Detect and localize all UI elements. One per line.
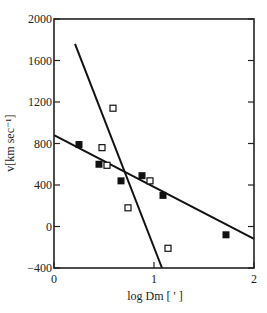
y-tick-label: 400: [34, 178, 52, 192]
filled-square-point: [76, 141, 83, 148]
open-square-point: [125, 205, 131, 211]
filled-square-point: [96, 161, 103, 168]
filled-square-point: [160, 192, 167, 199]
filled-square-point: [118, 177, 125, 184]
y-tick-label: 2000: [28, 12, 52, 26]
y-tick-label: 800: [34, 137, 52, 151]
y-tick-label: 0: [46, 220, 52, 234]
data-points: [76, 105, 230, 251]
y-axis-label: v[km sec⁻¹]: [3, 114, 17, 171]
x-tick-label: 2: [251, 272, 257, 286]
open-square-point: [110, 105, 116, 111]
y-tick-label: 1600: [28, 54, 52, 68]
open-square-point: [99, 145, 105, 151]
open-square-point: [104, 162, 110, 168]
axis-ticks: −4000400800120016002000012: [27, 12, 257, 286]
fit-line: [54, 135, 254, 239]
open-square-point: [147, 178, 153, 184]
x-tick-label: 1: [151, 272, 157, 286]
filled-square-point: [223, 231, 230, 238]
scatter-chart: −4000400800120016002000012 log Dm [ ' ] …: [0, 0, 267, 313]
plot-frame: [54, 19, 254, 268]
y-tick-label: −400: [27, 261, 52, 275]
x-axis-label: log Dm [ ' ]: [127, 289, 183, 303]
x-tick-label: 0: [51, 272, 57, 286]
fit-line: [75, 44, 162, 268]
filled-square-point: [139, 172, 146, 179]
y-tick-label: 1200: [28, 95, 52, 109]
open-square-point: [165, 245, 171, 251]
